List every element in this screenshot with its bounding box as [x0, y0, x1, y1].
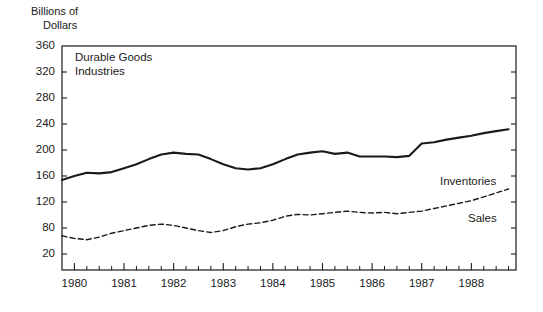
chart-background	[0, 0, 543, 312]
y-axis-tick-label: 80	[25, 221, 55, 233]
x-axis-tick-label: 1981	[101, 277, 147, 289]
series-label-sales: Sales	[468, 212, 497, 224]
chart-annotation: Durable GoodsIndustries	[75, 51, 152, 78]
y-axis-tick-label: 200	[25, 143, 55, 155]
x-axis-tick-label: 1986	[349, 277, 395, 289]
chart-annotation-line1: Durable Goods	[75, 51, 152, 63]
y-axis-tick-label: 240	[25, 117, 55, 129]
chart-figure	[0, 0, 543, 312]
x-axis-tick-label: 1987	[399, 277, 445, 289]
chart-annotation-line2: Industries	[75, 65, 125, 77]
y-axis-unit-line1: Billions of	[31, 5, 78, 19]
y-axis-tick-label: 120	[25, 195, 55, 207]
y-axis-unit-line2: Dollars	[43, 19, 77, 33]
y-axis-tick-label: 320	[25, 65, 55, 77]
x-axis-tick-label: 1980	[51, 277, 97, 289]
series-label-inventories: Inventories	[440, 175, 496, 187]
x-axis-tick-label: 1983	[200, 277, 246, 289]
y-axis-tick-label: 360	[25, 39, 55, 51]
x-axis-tick-label: 1988	[448, 277, 494, 289]
x-axis-tick-label: 1985	[299, 277, 345, 289]
x-axis-tick-label: 1982	[151, 277, 197, 289]
y-axis-tick-label: 20	[25, 247, 55, 259]
y-axis-tick-label: 160	[25, 169, 55, 181]
y-axis-tick-label: 280	[25, 91, 55, 103]
x-axis-tick-label: 1984	[250, 277, 296, 289]
